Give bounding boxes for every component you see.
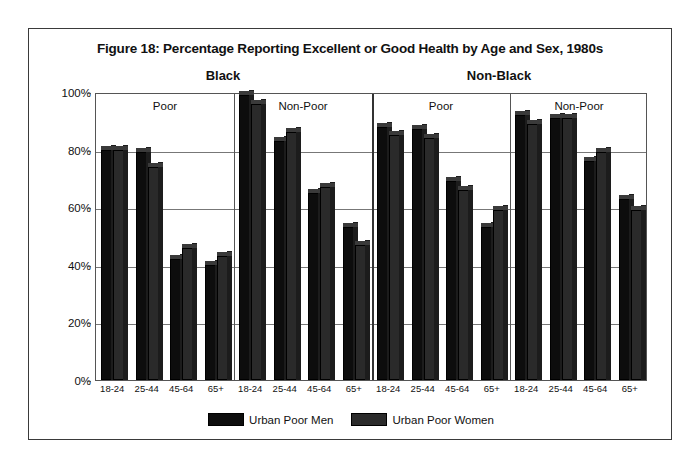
bar-side-face bbox=[365, 240, 370, 380]
bar-women bbox=[182, 243, 194, 380]
x-axis-tick-label: 45-64 bbox=[169, 383, 193, 394]
panel-label-non-poor: Non-Poor bbox=[510, 100, 648, 112]
bar-top-face bbox=[493, 206, 508, 210]
bar-side-face bbox=[503, 205, 508, 380]
legend-label: Urban Poor Men bbox=[249, 414, 333, 426]
bar-top-face bbox=[377, 123, 392, 127]
legend-item: Urban Poor Women bbox=[351, 413, 493, 426]
y-axis-tick-mark bbox=[87, 323, 91, 324]
x-axis: 18-2425-4445-6465+18-2425-4445-6465+18-2… bbox=[95, 383, 647, 401]
bar-top-face bbox=[136, 148, 151, 152]
y-axis-tick-label: 40% bbox=[55, 260, 91, 272]
y-axis-tick-label: 100% bbox=[55, 87, 91, 99]
x-axis-tick-label: 25-44 bbox=[411, 383, 435, 394]
plot-area: PoorNon-PoorPoorNon-Poor bbox=[95, 93, 647, 381]
legend-item: Urban Poor Men bbox=[208, 413, 333, 426]
x-axis-tick-label: 25-44 bbox=[273, 383, 297, 394]
bar-men bbox=[619, 194, 631, 380]
bar-top-face bbox=[446, 177, 461, 181]
bar-side-face bbox=[227, 251, 232, 380]
bar-men bbox=[481, 222, 493, 380]
y-axis-tick-label: 0% bbox=[55, 375, 91, 387]
bar-top-face bbox=[412, 125, 427, 129]
bar-women bbox=[493, 205, 505, 380]
bar-top-face bbox=[527, 120, 542, 124]
bar-top-face bbox=[343, 223, 358, 227]
bar-women bbox=[217, 251, 229, 380]
bar-side-face bbox=[192, 243, 197, 380]
y-axis-tick-mark bbox=[87, 93, 91, 94]
page-title: Figure 18: Percentage Reporting Excellen… bbox=[29, 41, 671, 56]
y-axis-tick-label: 20% bbox=[55, 317, 91, 329]
supergroup-label-black: Black bbox=[95, 68, 351, 83]
y-axis-tick-label: 60% bbox=[55, 202, 91, 214]
bar-top-face bbox=[424, 134, 439, 138]
bar-men bbox=[412, 124, 424, 380]
legend-label: Urban Poor Women bbox=[392, 414, 493, 426]
bar-men bbox=[343, 222, 355, 380]
bar-women bbox=[458, 185, 470, 380]
bar-women bbox=[527, 119, 539, 380]
y-axis-tick-mark bbox=[87, 266, 91, 267]
bar-women bbox=[251, 99, 263, 380]
y-axis-tick-mark bbox=[87, 381, 91, 382]
x-axis-tick-label: 18-24 bbox=[514, 383, 538, 394]
x-axis-tick-label: 65+ bbox=[208, 383, 224, 394]
bar-top-face bbox=[355, 241, 370, 245]
bar-top-face bbox=[389, 131, 404, 135]
bar-men bbox=[515, 110, 527, 380]
bar-top-face bbox=[239, 91, 254, 95]
x-axis-tick-label: 45-64 bbox=[445, 383, 469, 394]
x-axis-tick-label: 18-24 bbox=[100, 383, 124, 394]
bar-top-face bbox=[148, 163, 163, 167]
panel-divider bbox=[234, 94, 235, 380]
bar-top-face bbox=[631, 206, 646, 210]
bar-men bbox=[101, 145, 113, 380]
bar-side-face bbox=[572, 113, 577, 380]
bar-side-face bbox=[606, 147, 611, 380]
x-axis-tick-label: 18-24 bbox=[238, 383, 262, 394]
panel-divider bbox=[372, 94, 374, 380]
panel-label-poor: Poor bbox=[96, 100, 234, 112]
bar-men bbox=[205, 260, 217, 380]
bar-men bbox=[170, 254, 182, 380]
y-axis: 0%20%40%60%80%100% bbox=[51, 93, 91, 381]
bar-top-face bbox=[286, 128, 301, 132]
bar-women bbox=[320, 182, 332, 380]
bar-top-face bbox=[251, 100, 266, 104]
x-axis-tick-label: 45-64 bbox=[583, 383, 607, 394]
x-axis-tick-label: 45-64 bbox=[307, 383, 331, 394]
bar-side-face bbox=[261, 99, 266, 380]
bar-top-face bbox=[217, 252, 232, 256]
bar-top-face bbox=[113, 146, 128, 150]
bar-men bbox=[446, 176, 458, 380]
bar-women bbox=[424, 133, 436, 380]
bar-top-face bbox=[182, 244, 197, 248]
bar-women bbox=[389, 130, 401, 380]
x-axis-tick-label: 25-44 bbox=[549, 383, 573, 394]
bar-top-face bbox=[562, 114, 577, 118]
bar-side-face bbox=[123, 145, 128, 380]
bar-top-face bbox=[619, 195, 634, 199]
x-axis-tick-label: 25-44 bbox=[135, 383, 159, 394]
panel-divider bbox=[510, 94, 511, 380]
bar-men bbox=[550, 113, 562, 380]
chart-legend: Urban Poor MenUrban Poor Women bbox=[29, 413, 673, 426]
bar-women bbox=[562, 113, 574, 380]
bar-men bbox=[274, 136, 286, 380]
x-axis-tick-label: 18-24 bbox=[376, 383, 400, 394]
bar-side-face bbox=[158, 162, 163, 380]
y-axis-tick-label: 80% bbox=[55, 145, 91, 157]
bar-men bbox=[136, 147, 148, 380]
bar-side-face bbox=[434, 133, 439, 380]
x-axis-tick-label: 65+ bbox=[484, 383, 500, 394]
bar-top-face bbox=[596, 148, 611, 152]
x-axis-tick-label: 65+ bbox=[346, 383, 362, 394]
bar-side-face bbox=[468, 185, 473, 380]
bar-side-face bbox=[537, 119, 542, 380]
figure-frame: Figure 18: Percentage Reporting Excellen… bbox=[28, 28, 672, 440]
y-axis-tick-mark bbox=[87, 208, 91, 209]
bar-top-face bbox=[458, 186, 473, 190]
x-axis-tick-label: 65+ bbox=[622, 383, 638, 394]
bar-men bbox=[239, 90, 251, 380]
